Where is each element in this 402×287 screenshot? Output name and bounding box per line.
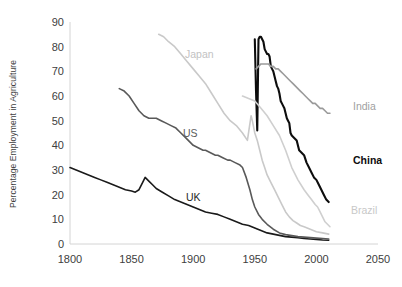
series-label-japan: Japan <box>185 48 214 60</box>
series-label-china: China <box>353 154 382 166</box>
x-tick-label: 1850 <box>119 253 143 265</box>
y-tick-label: 60 <box>52 90 64 102</box>
x-tick-label: 2050 <box>366 253 390 265</box>
series-label-us: US <box>183 127 198 139</box>
y-tick-label: 20 <box>52 189 64 201</box>
y-tick-label: 50 <box>52 115 64 127</box>
y-axis-title: Percentage Employment in Agriculture <box>8 60 18 208</box>
y-tick-label: 90 <box>52 16 64 28</box>
employment-in-agriculture-line-chart: Percentage Employment in Agriculture 010… <box>0 0 402 287</box>
y-tick-label: 70 <box>52 65 64 77</box>
series-label-india: India <box>353 100 376 112</box>
x-tick-label: 1950 <box>243 253 267 265</box>
y-tick-label: 10 <box>52 213 64 225</box>
series-label-brazil: Brazil <box>351 204 377 216</box>
x-tick-label: 1800 <box>58 253 82 265</box>
series-label-uk: UK <box>186 191 201 203</box>
chart-figure: Percentage Employment in Agriculture 010… <box>0 0 402 287</box>
y-tick-label: 30 <box>52 164 64 176</box>
y-tick-label: 80 <box>52 41 64 53</box>
x-tick-label: 1900 <box>181 253 205 265</box>
y-tick-label: 0 <box>58 238 64 250</box>
y-tick-label: 40 <box>52 139 64 151</box>
x-tick-label: 2000 <box>304 253 328 265</box>
